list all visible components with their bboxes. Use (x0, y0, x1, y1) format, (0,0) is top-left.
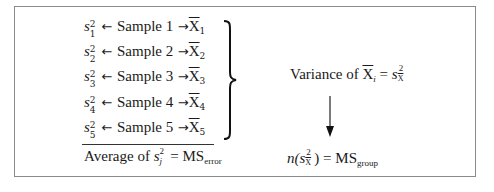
left-arrow-icon: ← (101, 95, 112, 110)
mean-symbol: X (189, 68, 200, 84)
sample-row-4: s24 ← Sample 4 →X4 (84, 93, 205, 116)
mean-symbol: X (189, 94, 200, 110)
right-arrow-icon: → (178, 120, 189, 135)
right-arrow-icon: → (178, 69, 189, 84)
left-arrow-icon: ← (101, 44, 112, 59)
right-arrow-icon: → (178, 19, 189, 34)
mean-symbol: X (189, 43, 200, 59)
mean-symbol: X (189, 18, 200, 34)
left-arrow-icon: ← (101, 19, 112, 34)
sample-label: Sample 1 (117, 18, 173, 34)
variance-of-means-formula: Variance of Xi = s2X (290, 66, 407, 84)
ms-group-formula: n(s2X) = MSgroup (287, 150, 378, 168)
average-variance-formula: Average of s2j = MSerror (84, 148, 222, 166)
sample-label: Sample 5 (117, 119, 173, 135)
curly-brace-icon (222, 20, 238, 140)
mean-symbol: X (189, 119, 200, 135)
down-arrow-icon (324, 96, 336, 138)
sample-row-3: s23 ← Sample 3 →X3 (84, 67, 205, 90)
summary-rule (82, 144, 214, 145)
sample-label: Sample 3 (117, 68, 173, 84)
sample-label: Sample 2 (117, 43, 173, 59)
left-arrow-icon: ← (101, 120, 112, 135)
sample-row-5: s25 ← Sample 5 →X5 (84, 118, 205, 141)
sample-row-2: s22 ← Sample 2 →X2 (84, 42, 205, 65)
right-arrow-icon: → (178, 95, 189, 110)
right-arrow-icon: → (178, 44, 189, 59)
left-arrow-icon: ← (101, 69, 112, 84)
sample-label: Sample 4 (117, 94, 173, 110)
sample-row-1: s21 ← Sample 1 →X1 (84, 17, 205, 40)
